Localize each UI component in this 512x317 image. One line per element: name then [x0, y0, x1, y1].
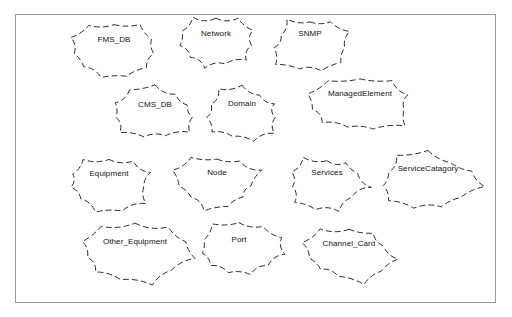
entity-node[interactable]: Equipment	[63, 156, 155, 212]
entity-node[interactable]: CMS_DB	[109, 86, 201, 142]
entity-node[interactable]: ManagedElement	[303, 77, 417, 135]
entity-node[interactable]: Channel_Card	[299, 226, 399, 284]
cloud-shape-icon	[303, 77, 417, 135]
entity-node-label: ManagedElement	[303, 89, 417, 98]
cloud-shape-icon	[285, 154, 369, 212]
entity-node-label: Network	[174, 29, 258, 38]
cloud-shape-icon	[68, 21, 160, 79]
entity-node-label: Domain	[200, 99, 284, 108]
cloud-shape-icon	[200, 85, 284, 143]
entity-node-label: Port	[193, 235, 285, 244]
entity-node[interactable]: SNMP	[268, 15, 352, 73]
diagram-frame: FMS_DBNetworkSNMPCMS_DBDomainManagedElem…	[15, 14, 496, 303]
entity-node[interactable]: Domain	[200, 85, 284, 143]
entity-node[interactable]: Network	[174, 13, 258, 71]
cloud-shape-icon	[299, 226, 399, 284]
entity-node[interactable]: Port	[193, 221, 285, 279]
entity-node-label: FMS_DB	[68, 35, 160, 44]
entity-node-label: SNMP	[268, 29, 352, 38]
entity-node[interactable]: Other_Equipment	[76, 223, 194, 285]
cloud-shape-icon	[193, 221, 285, 279]
cloud-shape-icon	[268, 15, 352, 73]
entity-node-label: CMS_DB	[109, 100, 201, 109]
cloud-shape-icon	[174, 13, 258, 71]
cloud-shape-icon	[171, 154, 263, 212]
entity-node[interactable]: FMS_DB	[68, 21, 160, 79]
cloud-shape-icon	[76, 223, 194, 285]
cloud-shape-icon	[109, 86, 201, 142]
entity-node-label: Channel_Card	[299, 239, 399, 248]
diagram-canvas: FMS_DBNetworkSNMPCMS_DBDomainManagedElem…	[0, 0, 512, 317]
entity-node[interactable]: Node	[171, 154, 263, 212]
entity-node[interactable]: ServiceCatagory	[373, 152, 483, 212]
entity-node-label: Other_Equipment	[76, 237, 194, 246]
cloud-shape-icon	[63, 156, 155, 212]
entity-node[interactable]: Services	[285, 154, 369, 212]
entity-node-label: Equipment	[63, 169, 155, 178]
entity-node-label: Services	[285, 168, 369, 177]
entity-node-label: ServiceCatagory	[373, 164, 483, 173]
entity-node-label: Node	[171, 168, 263, 177]
cloud-shape-icon	[373, 152, 483, 212]
